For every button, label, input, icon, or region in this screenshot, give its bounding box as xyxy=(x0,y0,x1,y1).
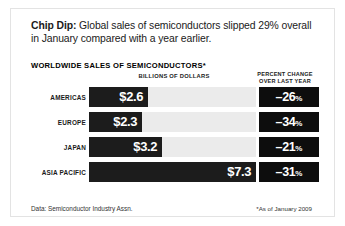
category-label: EUROPE xyxy=(11,116,86,129)
percent-box: –34% xyxy=(259,112,319,132)
value-label: $7.3 xyxy=(227,162,251,182)
value-label: $3.2 xyxy=(133,137,157,157)
value-bar: $3.2 xyxy=(89,137,162,157)
percent-label: –31% xyxy=(259,162,319,184)
bar-track: $3.2 xyxy=(89,137,256,157)
percent-box: –26% xyxy=(259,87,319,107)
bar-row: ASIA PACIFIC$7.3–31% xyxy=(11,162,336,187)
source-note: Data: Semiconductor Industry Assn. xyxy=(31,205,133,212)
percent-box: –31% xyxy=(259,162,319,182)
chart-title: WORLDWIDE SALES OF SEMICONDUCTORS* xyxy=(31,61,206,70)
category-label: JAPAN xyxy=(11,141,86,154)
percent-column-header: PERCENT CHANGEOVER LAST YEAR xyxy=(249,71,321,84)
value-bar: $2.6 xyxy=(89,87,148,107)
value-bar: $2.3 xyxy=(89,112,142,132)
value-label: $2.3 xyxy=(113,112,137,132)
bar-row: EUROPE$2.3–34% xyxy=(11,112,336,137)
bar-track: $2.6 xyxy=(89,87,256,107)
bar-track: $7.3 xyxy=(89,162,256,182)
x-axis-label: BILLIONS OF DOLLARS xyxy=(89,73,259,79)
percent-box: –21% xyxy=(259,137,319,157)
value-label: $2.6 xyxy=(119,87,143,107)
value-bar: $7.3 xyxy=(89,162,256,182)
bar-track: $2.3 xyxy=(89,112,256,132)
headline: Chip Dip: Global sales of semiconductors… xyxy=(31,19,321,45)
percent-label: –34% xyxy=(259,112,319,134)
bar-row: JAPAN$3.2–21% xyxy=(11,137,336,162)
percent-label: –21% xyxy=(259,137,319,159)
percent-label: –26% xyxy=(259,87,319,109)
bar-rows: AMERICAS$2.6–26%EUROPE$2.3–34%JAPAN$3.2–… xyxy=(11,87,336,187)
category-label: ASIA PACIFIC xyxy=(11,166,86,179)
headline-lead: Chip Dip: xyxy=(31,20,76,31)
bar-row: AMERICAS$2.6–26% xyxy=(11,87,336,112)
category-label: AMERICAS xyxy=(11,91,86,104)
infographic-frame: Chip Dip: Global sales of semiconductors… xyxy=(10,8,335,217)
as-of-note: *As of January 2009 xyxy=(256,205,312,212)
